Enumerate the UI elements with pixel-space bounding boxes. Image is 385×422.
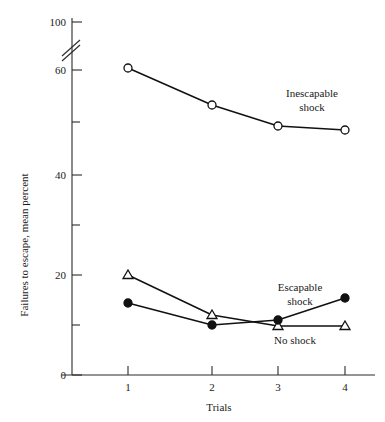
data-point-escapable-4: [341, 294, 349, 302]
y-tick-labels: 100 60 40 20 0: [50, 16, 67, 381]
y-tick-label-20: 20: [55, 269, 67, 281]
x-tick-label-2: 2: [209, 381, 215, 393]
series-label-no-shock: No shock: [274, 334, 316, 346]
data-point-inescapable-1: [124, 64, 132, 72]
data-point-inescapable-2: [208, 101, 216, 109]
series-label-escapable-shock: Escapable shock: [278, 281, 323, 307]
series-inescapable-shock: [124, 64, 349, 134]
data-point-noshock-2: [207, 310, 217, 319]
series-label-inescapable-line2: shock: [299, 101, 325, 113]
series-label-inescapable-shock: Inescapable shock: [286, 87, 338, 113]
data-point-escapable-1: [124, 299, 132, 307]
x-tick-label-3: 3: [275, 381, 281, 393]
x-axis-title: Trials: [206, 401, 231, 413]
x-axis: [62, 366, 375, 375]
line-chart-svg: 100 60 40 20 0 Failures to escape, mean …: [0, 0, 385, 422]
series-label-escapable-line1: Escapable: [278, 281, 323, 293]
y-axis-title: Failures to escape, mean percent: [18, 173, 30, 316]
series-no-shock: [123, 270, 350, 330]
series-label-inescapable-line1: Inescapable: [286, 87, 338, 99]
y-tick-label-100: 100: [50, 16, 67, 28]
data-point-inescapable-4: [341, 126, 349, 134]
series-line-inescapable-shock: [128, 68, 345, 130]
x-tick-labels: 1 2 3 4: [125, 381, 348, 393]
series-escapable-shock: [124, 294, 349, 329]
y-tick-label-60: 60: [55, 64, 67, 76]
data-point-inescapable-3: [274, 122, 282, 130]
data-point-escapable-3: [274, 316, 282, 324]
data-point-escapable-2: [208, 321, 216, 329]
x-tick-label-4: 4: [342, 381, 348, 393]
x-tick-label-1: 1: [125, 381, 131, 393]
data-point-noshock-1: [123, 270, 133, 279]
chart-figure: 100 60 40 20 0 Failures to escape, mean …: [0, 0, 385, 422]
y-tick-label-40: 40: [55, 169, 67, 181]
series-label-escapable-line2: shock: [287, 295, 313, 307]
